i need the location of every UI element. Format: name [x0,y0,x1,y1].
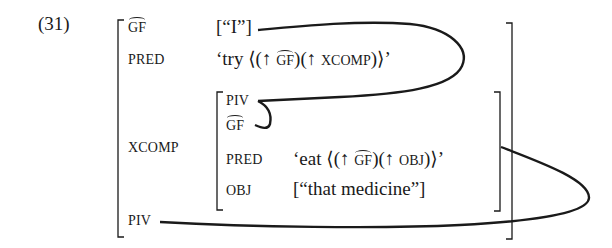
pred-obj: OBJ [399,153,424,168]
inner-obj-value: [“that medicine”] [293,179,425,198]
inner-piv-label: PIV [226,94,249,108]
avm-lines [0,0,612,248]
pred-suffix: )⟩’ [424,148,444,169]
outer-piv-label: PIV [128,214,151,228]
pred-gf: GF [276,54,294,68]
inner-gf-label: GF [226,119,244,133]
inner-pred-value: ‘eat ⟨(↑ GF)(↑ OBJ)⟩’ [293,149,444,168]
outer-xcomp-label: XCOMP [128,141,179,155]
example-number: (31) [38,14,70,33]
inner-right-bracket [494,92,500,211]
gf-hat-label: GF [128,21,146,35]
coindex-line-piv-gf [255,101,271,128]
pred-suffix: )⟩’ [371,48,391,69]
gf-hat-label: GF [226,119,244,133]
outer-left-bracket [118,20,124,237]
outer-gf-label: GF [128,21,146,35]
pred-gf: GF [354,154,372,168]
outer-pred-label: PRED [128,53,165,67]
outer-gf-value: [“I”] [216,17,252,36]
outer-right-bracket [506,23,512,239]
inner-pred-label: PRED [226,153,263,167]
outer-pred-value: ‘try ⟨(↑ GF)(↑ XCOMP)⟩’ [216,49,391,68]
pred-mid: )(↑ [372,148,399,169]
pred-prefix: ‘try ⟨(↑ [216,48,276,69]
inner-left-bracket [217,92,223,210]
pred-prefix: ‘eat ⟨(↑ [293,148,354,169]
pred-xcomp: XCOMP [321,53,371,68]
pred-mid: )(↑ [294,48,321,69]
inner-obj-label: OBJ [226,184,252,198]
